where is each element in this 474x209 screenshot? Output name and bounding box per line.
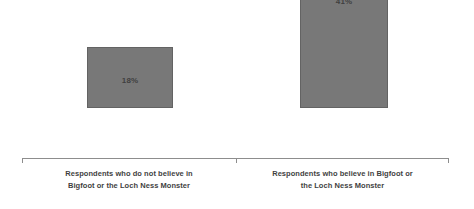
category-labels: Respondents who do not believe in Bigfoo… bbox=[0, 168, 474, 209]
category-label-non-believers-line1: Respondents who do not believe in bbox=[22, 168, 236, 180]
category-label-believers-line1: Respondents who believe in Bigfoot or bbox=[236, 168, 449, 180]
axis-tick-start bbox=[22, 158, 23, 163]
category-label-non-believers-line2: Bigfoot or the Loch Ness Monster bbox=[22, 180, 236, 192]
category-label-believers-line2: the Loch Ness Monster bbox=[236, 180, 449, 192]
bar-believers[interactable] bbox=[300, 0, 388, 108]
plot-area: 18% 41% bbox=[0, 0, 474, 159]
category-label-believers: Respondents who believe in Bigfoot or th… bbox=[236, 168, 449, 191]
value-label-non-believers: 18% bbox=[87, 76, 173, 85]
category-label-non-believers: Respondents who do not believe in Bigfoo… bbox=[22, 168, 236, 191]
axis-tick-end bbox=[448, 158, 449, 163]
bar-chart: 18% 41% Respondents who do not believe i… bbox=[0, 0, 474, 209]
axis-tick-middle bbox=[236, 158, 237, 163]
value-label-believers: 41% bbox=[300, 0, 388, 6]
